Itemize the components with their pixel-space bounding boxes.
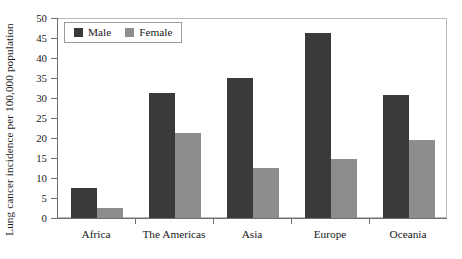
y-tick-mark — [51, 118, 57, 119]
x-tick-mark — [213, 219, 214, 224]
y-tick-label: 35 — [9, 72, 47, 84]
bar-group — [227, 18, 279, 218]
y-tick-mark — [51, 178, 57, 179]
x-tick-mark — [135, 219, 136, 224]
legend: MaleFemale — [64, 22, 182, 43]
legend-swatch-female — [125, 28, 134, 37]
bar-male — [305, 33, 331, 218]
bar-group — [305, 18, 357, 218]
y-tick-mark — [51, 38, 57, 39]
x-tick-label: Europe — [314, 228, 347, 240]
bar-group — [71, 18, 123, 218]
bar-male — [227, 78, 253, 218]
x-tick-mark — [291, 219, 292, 224]
legend-item-male: Male — [74, 27, 111, 38]
x-axis-line — [57, 218, 447, 219]
y-tick-label: 20 — [9, 132, 47, 144]
y-tick-mark — [51, 218, 57, 219]
bar-chart: Lung cancer incidence per 100,000 popula… — [0, 0, 462, 259]
y-tick-mark — [51, 198, 57, 199]
y-tick-label: 40 — [9, 52, 47, 64]
y-tick-label: 50 — [9, 12, 47, 24]
bar-female — [97, 208, 123, 218]
x-tick-mark — [369, 219, 370, 224]
bar-male — [71, 188, 97, 218]
y-tick-mark — [51, 78, 57, 79]
bar-female — [253, 168, 279, 218]
x-tick-label: Africa — [82, 228, 111, 240]
x-tick-label: Asia — [242, 228, 263, 240]
x-tick-label: Oceania — [389, 228, 426, 240]
legend-label: Female — [139, 27, 172, 38]
bar-group — [149, 18, 201, 218]
y-tick-mark — [51, 98, 57, 99]
bar-group — [383, 18, 435, 218]
bar-female — [175, 133, 201, 218]
y-tick-label: 15 — [9, 152, 47, 164]
bars-layer — [58, 18, 447, 218]
y-tick-mark — [51, 18, 57, 19]
y-tick-label: 30 — [9, 92, 47, 104]
y-tick-label: 25 — [9, 112, 47, 124]
bar-male — [383, 95, 409, 218]
y-tick-mark — [51, 138, 57, 139]
y-tick-mark — [51, 58, 57, 59]
bar-female — [331, 159, 357, 218]
y-tick-label: 10 — [9, 172, 47, 184]
y-tick-label: 45 — [9, 32, 47, 44]
bar-male — [149, 93, 175, 218]
y-tick-mark — [51, 158, 57, 159]
bar-female — [409, 140, 435, 218]
legend-label: Male — [88, 27, 111, 38]
legend-swatch-male — [74, 28, 83, 37]
y-tick-label: 0 — [9, 212, 47, 224]
y-tick-label: 5 — [9, 192, 47, 204]
legend-item-female: Female — [125, 27, 172, 38]
x-tick-label: The Americas — [142, 228, 205, 240]
